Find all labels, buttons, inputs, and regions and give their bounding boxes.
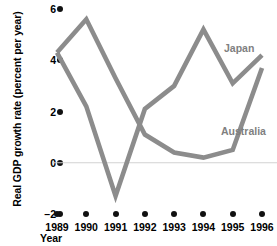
x-tick-marker-dot xyxy=(113,211,119,217)
x-tick-marker-dot xyxy=(259,211,265,217)
x-tick-marker-dot xyxy=(230,211,236,217)
series-line-australia xyxy=(57,30,262,197)
x-tick-label: 1996 xyxy=(245,221,277,233)
gdp-growth-line-chart: Real GDP growth rate (percent per year) … xyxy=(0,0,277,246)
series-label-australia: Australia xyxy=(221,125,266,137)
x-tick-marker-dot xyxy=(54,211,60,217)
plot-area xyxy=(0,0,277,246)
x-axis-title: Year xyxy=(40,232,62,244)
series-label-japan: Japan xyxy=(224,42,254,54)
x-tick-marker-dot xyxy=(142,211,148,217)
